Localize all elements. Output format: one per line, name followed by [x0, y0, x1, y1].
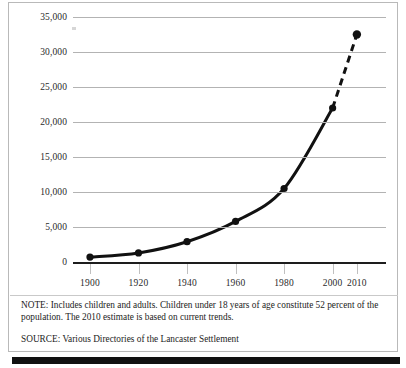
gridline	[73, 87, 386, 88]
x-axis-tick	[90, 264, 91, 274]
x-axis-tick-label: 1980	[274, 278, 294, 288]
y-axis-tick-label: 15,000	[11, 152, 67, 162]
y-axis-tick-label: 30,000	[11, 47, 67, 57]
x-axis-tick	[236, 264, 237, 274]
y-axis-tick-label: 10,000	[11, 187, 67, 197]
gridline	[73, 17, 386, 18]
x-axis-tick	[357, 264, 358, 274]
gridline	[73, 122, 386, 123]
x-axis-tick	[187, 264, 188, 274]
y-axis-tick-label: 5,000	[11, 222, 67, 232]
gridline	[73, 227, 386, 228]
gridline	[73, 52, 386, 53]
x-axis-line	[73, 262, 386, 264]
figure-panel: 05,00010,00015,00020,00025,00030,00035,0…	[8, 2, 398, 352]
data-point-marker	[329, 104, 336, 111]
footnote-divider	[10, 295, 398, 296]
series-line-solid	[90, 108, 333, 257]
line-chart: 05,00010,00015,00020,00025,00030,00035,0…	[9, 3, 399, 295]
source-text: SOURCE: Various Directories of the Lanca…	[21, 333, 387, 345]
scan-artifact	[72, 27, 76, 30]
y-axis-tick-label: 25,000	[11, 82, 67, 92]
chart-canvas	[9, 3, 399, 295]
data-point-marker	[232, 218, 239, 225]
x-axis-tick-label: 2000	[323, 278, 343, 288]
x-axis-tick-label: 2010	[347, 278, 367, 288]
footnotes: NOTE: Includes children and adults. Chil…	[21, 299, 387, 345]
series-line-estimate-dashed	[333, 35, 357, 109]
data-point-marker	[353, 30, 361, 38]
data-point-marker	[86, 254, 93, 261]
x-axis-tick	[139, 264, 140, 274]
x-axis-tick-label: 1940	[177, 278, 197, 288]
note-text: NOTE: Includes children and adults. Chil…	[21, 299, 387, 324]
y-axis-tick-label: 20,000	[11, 117, 67, 127]
y-axis-tick-label: 35,000	[11, 12, 67, 22]
x-axis-tick-label: 1900	[80, 278, 100, 288]
data-point-marker	[135, 249, 142, 256]
x-axis-tick	[333, 264, 334, 274]
gridline	[73, 157, 386, 158]
gridline	[73, 192, 386, 193]
bottom-black-bar	[12, 357, 400, 364]
x-axis-tick	[284, 264, 285, 274]
data-point-marker	[183, 238, 190, 245]
y-axis-tick-label: 0	[11, 257, 67, 267]
x-axis-tick-label: 1920	[129, 278, 149, 288]
x-axis-tick-label: 1960	[226, 278, 246, 288]
